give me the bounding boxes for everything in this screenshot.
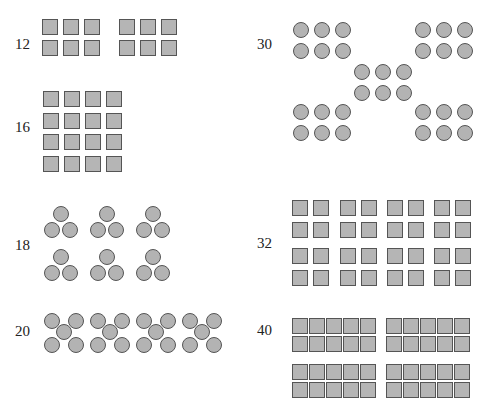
square-icon <box>454 364 470 380</box>
square-icon <box>343 336 359 352</box>
square-icon <box>403 364 419 380</box>
square-icon <box>360 382 376 398</box>
square-icon <box>292 318 308 334</box>
square-icon <box>292 364 308 380</box>
group-40 <box>0 0 482 406</box>
square-icon <box>420 382 436 398</box>
square-icon <box>403 382 419 398</box>
square-icon <box>386 364 402 380</box>
square-icon <box>403 336 419 352</box>
square-icon <box>292 336 308 352</box>
square-icon <box>454 318 470 334</box>
square-icon <box>326 382 342 398</box>
square-icon <box>326 336 342 352</box>
square-icon <box>437 318 453 334</box>
square-icon <box>360 364 376 380</box>
square-icon <box>437 382 453 398</box>
square-icon <box>386 318 402 334</box>
square-icon <box>437 336 453 352</box>
square-icon <box>343 318 359 334</box>
square-icon <box>420 364 436 380</box>
square-icon <box>403 318 419 334</box>
square-icon <box>360 318 376 334</box>
square-icon <box>309 336 325 352</box>
square-icon <box>386 382 402 398</box>
square-icon <box>309 364 325 380</box>
square-icon <box>386 336 402 352</box>
square-icon <box>343 382 359 398</box>
square-icon <box>309 382 325 398</box>
square-icon <box>309 318 325 334</box>
square-icon <box>326 318 342 334</box>
square-icon <box>326 364 342 380</box>
square-icon <box>343 364 359 380</box>
square-icon <box>420 318 436 334</box>
square-icon <box>454 382 470 398</box>
square-icon <box>292 382 308 398</box>
square-icon <box>420 336 436 352</box>
square-icon <box>360 336 376 352</box>
square-icon <box>437 364 453 380</box>
square-icon <box>454 336 470 352</box>
